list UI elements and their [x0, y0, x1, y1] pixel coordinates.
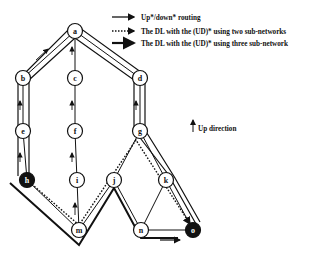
svg-text:j: j — [112, 176, 116, 185]
up-direction-label: Up direction — [198, 125, 236, 133]
route-thick-path — [10, 183, 178, 245]
svg-text:o: o — [191, 226, 195, 235]
legend-label-three-subnetworks: The DL with the (UD)* using three sub-ne… — [141, 40, 288, 48]
svg-text:n: n — [139, 226, 144, 235]
node-f: f — [68, 124, 83, 139]
legend-label-updown: Up*/down* routing — [141, 14, 201, 22]
svg-text:e: e — [21, 127, 25, 136]
node-g: g — [133, 124, 148, 139]
routing-diagram: Up*/down* routing The DL with the (UD)* … — [0, 0, 327, 257]
legend-label-two-subnetworks: The DL with the (UD)* using two sub-netw… — [141, 28, 286, 36]
node-d: d — [133, 71, 148, 86]
node-n: n — [134, 223, 149, 238]
svg-text:g: g — [138, 127, 142, 136]
svg-text:f: f — [74, 127, 77, 136]
svg-text:k: k — [164, 176, 169, 185]
svg-text:a: a — [73, 27, 77, 36]
node-h: h — [20, 173, 35, 188]
node-i: i — [70, 173, 85, 188]
node-c: c — [68, 71, 83, 86]
svg-text:h: h — [25, 176, 30, 185]
node-k: k — [159, 173, 174, 188]
svg-text:c: c — [73, 74, 77, 83]
node-a: a — [68, 24, 83, 39]
node-m: m — [72, 223, 87, 238]
node-j: j — [107, 173, 122, 188]
node-o: o — [186, 223, 201, 238]
svg-text:b: b — [21, 74, 26, 83]
svg-text:m: m — [76, 226, 83, 235]
svg-text:d: d — [138, 74, 143, 83]
node-b: b — [16, 71, 31, 86]
node-e: e — [16, 124, 31, 139]
